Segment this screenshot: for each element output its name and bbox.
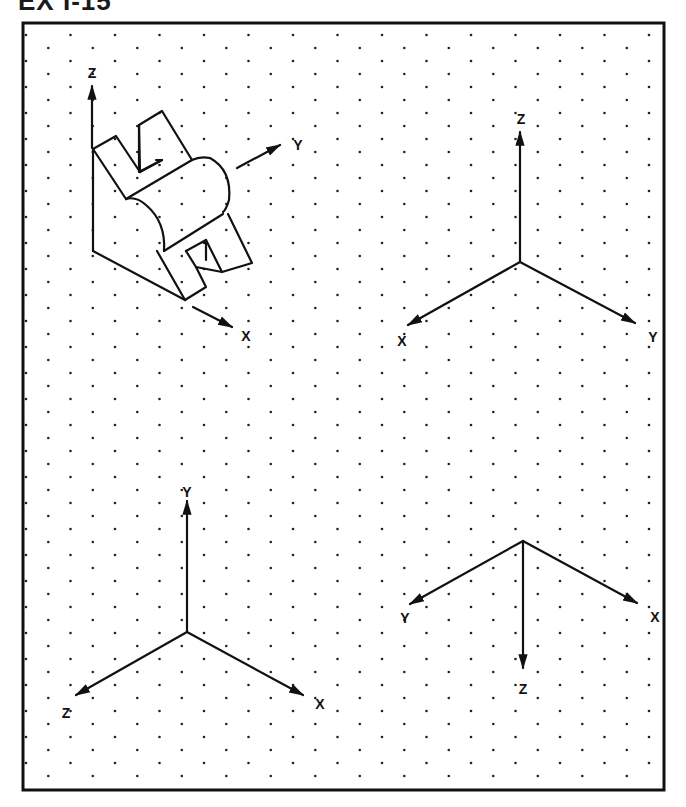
z-axis-label: Z (62, 705, 71, 721)
x-axis-arrow (523, 541, 637, 603)
y-axis-label: Y (648, 329, 658, 345)
y-axis-arrow (410, 541, 523, 604)
isometric-dot-grid (25, 34, 651, 778)
axes-bottom-right-panel: Y X Z (400, 541, 660, 697)
x-axis-arrow (193, 307, 232, 327)
y-axis-arrow (520, 262, 635, 323)
x-axis-label: X (315, 696, 325, 712)
axes-top-right-panel: Z X Y (397, 111, 658, 349)
z-axis-label: Z (88, 65, 97, 81)
x-axis-label: X (650, 609, 660, 625)
y-axis-label: Y (400, 610, 410, 626)
z-axis-arrow (76, 632, 187, 695)
x-axis-label: X (397, 333, 407, 349)
axes-bottom-left-panel: Y Z X (62, 484, 326, 721)
z-axis-label: Z (517, 111, 526, 127)
z-axis-label: Z (519, 681, 528, 697)
y-axis-label: Y (182, 484, 192, 500)
drawing-sheet: Z Y X Z X Y Y Z X Y X Z (0, 0, 686, 807)
y-axis-label: Y (293, 137, 303, 153)
drawing-frame (23, 23, 664, 790)
bracket-object (93, 111, 252, 300)
x-axis-label: X (241, 328, 251, 344)
x-axis-arrow (408, 262, 520, 325)
y-axis-arrow (237, 145, 280, 168)
